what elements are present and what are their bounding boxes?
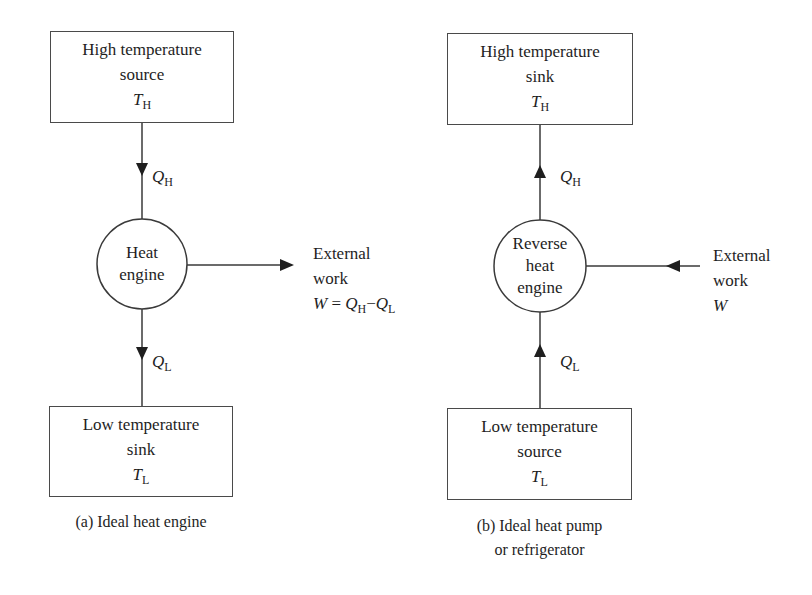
box-label: High temperature bbox=[448, 39, 632, 64]
box-label: Low temperature bbox=[448, 414, 631, 439]
arrow-down-icon bbox=[136, 347, 148, 360]
high-temperature-source-box: High temperature source TH bbox=[50, 31, 234, 123]
heat-in-label: QL bbox=[560, 349, 580, 380]
external-work-label: External bbox=[313, 241, 371, 266]
box-label: source bbox=[448, 439, 631, 464]
box-label: High temperature bbox=[51, 37, 233, 62]
temperature-symbol: TL bbox=[50, 462, 232, 493]
arrow-up-icon bbox=[534, 165, 546, 178]
box-label: Low temperature bbox=[50, 412, 232, 437]
box-label: sink bbox=[50, 437, 232, 462]
external-work-label: work bbox=[313, 266, 348, 291]
heat-engine-label: Heat engine bbox=[97, 242, 187, 286]
reverse-heat-engine-label: Reverse heat engine bbox=[494, 233, 586, 299]
arrow-right-icon bbox=[280, 259, 294, 271]
temperature-symbol: TH bbox=[51, 87, 233, 118]
temperature-symbol: TL bbox=[448, 464, 631, 495]
box-label: source bbox=[51, 62, 233, 87]
heat-in-label: QH bbox=[152, 164, 173, 195]
heat-out-label: QL bbox=[152, 349, 172, 380]
arrow-left-icon bbox=[666, 260, 680, 272]
arrow-up-icon bbox=[534, 344, 546, 357]
work-symbol: W bbox=[713, 293, 727, 318]
external-work-label: work bbox=[713, 268, 748, 293]
caption-b: (b) Ideal heat pump or refrigerator bbox=[447, 514, 632, 562]
high-temperature-sink-box: High temperature sink TH bbox=[447, 33, 633, 125]
low-temperature-sink-box: Low temperature sink TL bbox=[49, 406, 233, 497]
temperature-symbol: TH bbox=[448, 89, 632, 120]
caption-a: (a) Ideal heat engine bbox=[49, 510, 233, 534]
heat-out-label: QH bbox=[560, 164, 581, 195]
arrow-down-icon bbox=[136, 163, 148, 176]
low-temperature-source-box: Low temperature source TL bbox=[447, 408, 632, 500]
external-work-label: External bbox=[713, 243, 771, 268]
work-equation: W = QH−QL bbox=[313, 291, 395, 322]
box-label: sink bbox=[448, 64, 632, 89]
